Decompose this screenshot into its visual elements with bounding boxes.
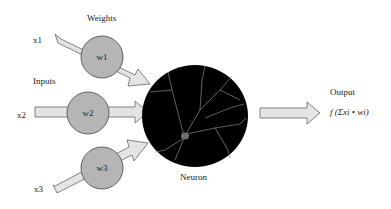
inputs-heading: Inputs — [33, 76, 56, 86]
weight-label-w3: w3 — [87, 163, 117, 173]
input-label-x2: x2 — [17, 110, 26, 120]
output-heading: Output — [330, 87, 355, 97]
input-label-x1: x1 — [33, 35, 42, 45]
weights-heading: Weights — [87, 13, 116, 23]
output-arrow — [260, 102, 320, 124]
neuron-label: Neuron — [180, 172, 207, 182]
input-label-x3: x3 — [34, 184, 43, 194]
weight-label-w2: w2 — [73, 108, 103, 118]
weight-label-w1: w1 — [87, 52, 117, 62]
output-formula: f (Σxi • wi) — [330, 107, 369, 117]
neuron-body — [142, 65, 248, 167]
